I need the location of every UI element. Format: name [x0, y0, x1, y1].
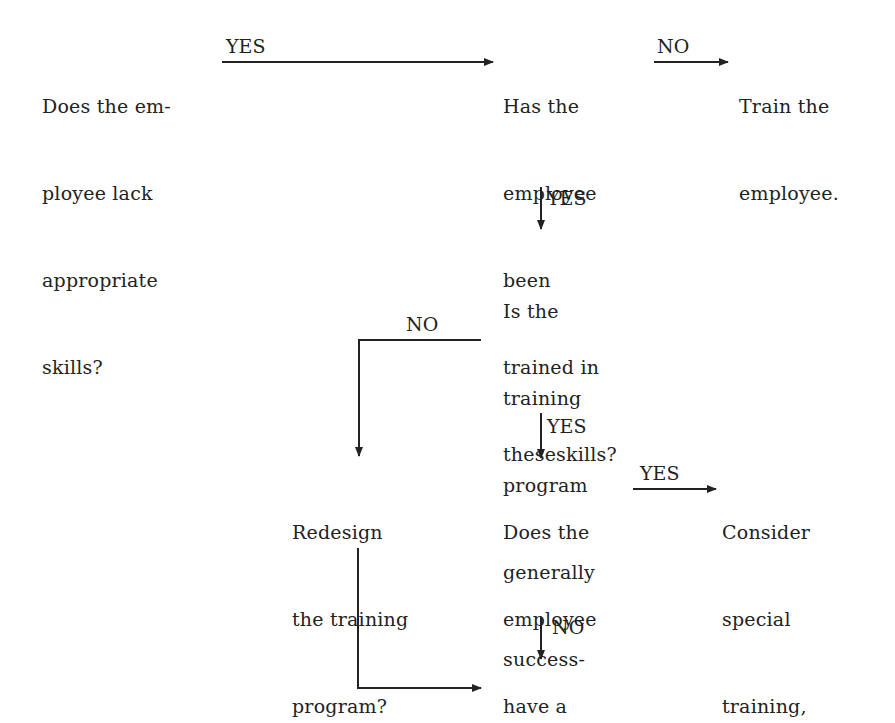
node-line: appropriate [42, 266, 171, 295]
node-line: program? [292, 692, 408, 721]
node-line: the training [292, 605, 408, 634]
node-line: skills? [42, 353, 171, 382]
edge-label-no: NO [552, 616, 584, 638]
edge-label-yes: YES [547, 415, 586, 437]
edge-label-yes: YES [640, 462, 679, 484]
node-retrain-employee: Retrain the employee. [503, 661, 614, 723]
node-line: Consider [722, 518, 841, 547]
edge-label-yes: YES [547, 187, 586, 209]
edge-label-no: NO [657, 35, 689, 57]
node-line: Does the em- [42, 92, 171, 121]
node-line: Has the [503, 92, 617, 121]
node-line: ployee lack [42, 179, 171, 208]
edge-label-yes: YES [226, 35, 265, 57]
edge-label-no: NO [406, 313, 438, 335]
node-line: Train the [739, 92, 839, 121]
node-train-employee: Train the employee. [739, 34, 839, 237]
node-line: Is the [503, 297, 595, 326]
edge-q3-redesign [359, 340, 481, 456]
node-line: Retrain the [503, 719, 614, 723]
node-line: training, [722, 692, 841, 721]
node-redesign-program: Redesign the training program? [292, 460, 408, 723]
node-lacks-skills: Does the em- ployee lack appropriate ski… [42, 34, 171, 411]
node-line: Does the [503, 518, 603, 547]
node-consider-special: Consider special training, reassign- men… [722, 460, 841, 723]
node-line: Redesign [292, 518, 408, 547]
node-line: special [722, 605, 841, 634]
node-line: employee. [739, 179, 839, 208]
node-line: training [503, 384, 595, 413]
